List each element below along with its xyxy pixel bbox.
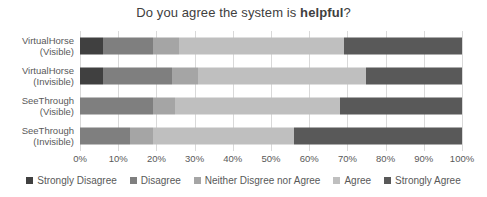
x-tick-label: 100% xyxy=(450,153,474,164)
chart-title-bold-word: helpful xyxy=(300,5,343,20)
bar-segment xyxy=(153,98,176,115)
category-label: SeeThrough(Invisible) xyxy=(0,125,74,147)
category-label-line2: (Invisible) xyxy=(0,136,74,147)
x-tick-label: 20% xyxy=(147,153,166,164)
x-tick-label: 70% xyxy=(338,153,357,164)
legend-label: Neither Disgree nor Agree xyxy=(205,175,321,186)
legend-swatch xyxy=(384,177,391,184)
category-label: SeeThrough(Visible) xyxy=(0,95,74,117)
bar-segment xyxy=(80,98,153,115)
bar-segment xyxy=(80,38,103,55)
category-label-line2: (Invisible) xyxy=(0,76,74,87)
bar-segment xyxy=(366,68,462,85)
legend-swatch xyxy=(194,177,201,184)
bar-segment xyxy=(344,38,462,55)
bar-segment xyxy=(153,128,294,145)
bar-segment xyxy=(103,38,153,55)
x-tick-label: 60% xyxy=(300,153,319,164)
category-label-line1: VirtualHorse xyxy=(0,35,74,46)
legend-label: Strongly Disagree xyxy=(37,175,116,186)
legend-label: Strongly Agree xyxy=(395,175,461,186)
chart-title-suffix: ? xyxy=(343,5,350,20)
category-label-line2: (Visible) xyxy=(0,106,74,117)
legend-label: Disagree xyxy=(141,175,181,186)
legend-swatch xyxy=(26,177,33,184)
chart-title-prefix: Do you agree the system is xyxy=(136,5,300,20)
bar-segment xyxy=(80,128,130,145)
category-label: VirtualHorse(Invisible) xyxy=(0,65,74,87)
bar-segment xyxy=(179,38,343,55)
bar-segment xyxy=(340,98,462,115)
stacked-bar xyxy=(80,68,462,85)
category-label-line1: VirtualHorse xyxy=(0,65,74,76)
legend-swatch xyxy=(333,177,340,184)
category-label: VirtualHorse(Visible) xyxy=(0,35,74,57)
legend-item: Strongly Disagree xyxy=(26,175,116,186)
legend-item: Strongly Agree xyxy=(384,175,461,186)
x-tick-label: 90% xyxy=(414,153,433,164)
bar-row: VirtualHorse(Visible) xyxy=(0,31,487,61)
legend-label: Agree xyxy=(344,175,371,186)
legend-item: Disagree xyxy=(130,175,181,186)
category-label-line2: (Visible) xyxy=(0,46,74,57)
bar-segment xyxy=(198,68,366,85)
chart-title: Do you agree the system is helpful? xyxy=(0,5,487,20)
bar-segment xyxy=(153,38,180,55)
x-tick-label: 40% xyxy=(223,153,242,164)
bar-segment xyxy=(172,68,199,85)
stacked-bar xyxy=(80,38,462,55)
bar-segment xyxy=(294,128,462,145)
bar-segment xyxy=(103,68,172,85)
legend: Strongly DisagreeDisagreeNeither Disgree… xyxy=(0,175,487,186)
x-tick-label: 10% xyxy=(109,153,128,164)
bar-row: VirtualHorse(Invisible) xyxy=(0,61,487,91)
stacked-bar xyxy=(80,98,462,115)
x-tick-label: 80% xyxy=(376,153,395,164)
bar-segment xyxy=(175,98,339,115)
category-label-line1: SeeThrough xyxy=(0,95,74,106)
bar-segment xyxy=(80,68,103,85)
x-axis-ticks: 0%10%20%30%40%50%60%70%80%90%100% xyxy=(80,153,462,165)
legend-swatch xyxy=(130,177,137,184)
bar-row: SeeThrough(Visible) xyxy=(0,91,487,121)
stacked-bar xyxy=(80,128,462,145)
x-tick-label: 0% xyxy=(73,153,87,164)
legend-item: Neither Disgree nor Agree xyxy=(194,175,321,186)
x-tick-label: 30% xyxy=(185,153,204,164)
likert-chart: Do you agree the system is helpful? Virt… xyxy=(0,0,487,197)
x-tick-label: 50% xyxy=(261,153,280,164)
bar-segment xyxy=(130,128,153,145)
bar-row: SeeThrough(Invisible) xyxy=(0,121,487,151)
legend-item: Agree xyxy=(333,175,371,186)
category-label-line1: SeeThrough xyxy=(0,125,74,136)
